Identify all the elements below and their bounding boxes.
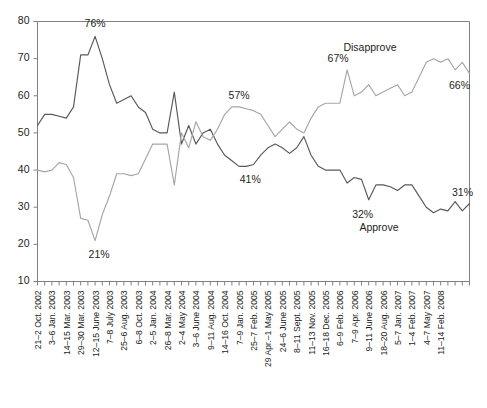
annotation-31pct: 31% <box>452 186 473 198</box>
x-tick-label: 21–2 Oct. 2002 <box>33 290 43 349</box>
series-label-approve: Approve <box>359 221 398 233</box>
x-tick-label: 3–6 June 2004 <box>191 290 201 347</box>
x-tick-label: 12–15 June 2003 <box>91 290 101 357</box>
chart-plot-area: 102030405060708021–2 Oct. 20023–6 Jan. 2… <box>0 0 487 408</box>
x-tick-label: 14–16 Oct. 2004 <box>220 290 230 354</box>
approval-rating-chart: 102030405060708021–2 Oct. 20023–6 Jan. 2… <box>0 0 487 408</box>
annotation-32pct: 32% <box>352 208 373 220</box>
y-tick-label: 70 <box>18 51 30 63</box>
x-tick-label: 5–7 Jan. 2007 <box>393 290 403 345</box>
x-tick-label: 7–9 Apr. 2006 <box>350 290 360 343</box>
x-tick-label: 26–8 Mar. 2004 <box>163 290 173 350</box>
y-tick-label: 60 <box>18 89 30 101</box>
annotation-67pct: 67% <box>328 52 349 64</box>
x-tick-label: 9–11 June 2006 <box>364 290 374 351</box>
y-tick-label: 40 <box>18 163 30 175</box>
x-tick-label: 16–18 Dec. 2005 <box>321 290 331 356</box>
annotation-21pct: 21% <box>89 248 110 260</box>
y-tick-label: 20 <box>18 237 30 249</box>
y-tick-label: 30 <box>18 200 30 212</box>
series-line-approve <box>38 36 470 212</box>
x-tick-label: 18–20 Aug. 2006 <box>379 290 389 355</box>
x-tick-label: 3–6 Jan. 2003 <box>47 290 57 345</box>
annotation-57pct: 57% <box>229 89 250 101</box>
annotation-76pct: 76% <box>85 17 106 29</box>
series-line-disapprove <box>38 59 470 241</box>
y-tick-label: 10 <box>18 274 30 286</box>
y-tick-label: 50 <box>18 126 30 138</box>
x-tick-label: 25–7 Feb. 2005 <box>249 290 259 350</box>
y-tick-label: 80 <box>18 14 30 26</box>
x-tick-label: 11–14 Feb. 2008 <box>436 290 446 355</box>
x-tick-label: 25–6 Aug. 2003 <box>119 290 129 350</box>
x-tick-label: 6–8 Oct. 2003 <box>134 290 144 344</box>
x-tick-label: 29 Apr.–1 May 2005 <box>263 290 273 367</box>
x-tick-label: 11–13 Nov. 2005 <box>307 290 317 354</box>
x-tick-label: 8–11 Sept. 2005 <box>292 290 302 353</box>
x-tick-label: 29–30 Mar. 2003 <box>76 290 86 355</box>
annotation-66pct: 66% <box>449 79 470 91</box>
x-tick-label: 6–9 Feb. 2006 <box>335 290 345 346</box>
x-tick-label: 7–9 Jan. 2005 <box>235 290 245 345</box>
annotation-41pct: 41% <box>240 173 261 185</box>
x-tick-label: 2–5 Jan. 2004 <box>148 290 158 345</box>
x-tick-label: 1–4 Feb. 2007 <box>407 290 417 346</box>
x-tick-label: 14–15 Mar. 2003 <box>62 290 72 355</box>
x-tick-label: 9–11 Aug. 2004 <box>206 290 216 350</box>
x-tick-label: 4–7 May 2007 <box>422 290 432 345</box>
x-tick-label: 24–6 June 2005 <box>278 290 288 352</box>
x-tick-label: 2–4 May 2004 <box>177 290 187 345</box>
series-label-disapprove: Disapprove <box>343 41 396 53</box>
x-tick-label: 7–8 July 2003 <box>105 290 115 344</box>
